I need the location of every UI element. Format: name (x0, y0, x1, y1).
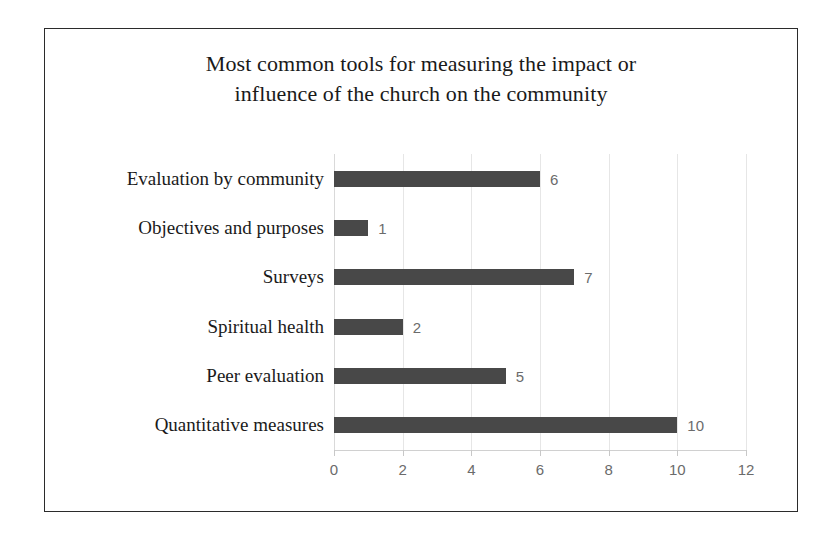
x-tick (403, 450, 404, 456)
bar-value-label: 10 (687, 417, 704, 434)
category-axis: Evaluation by communityObjectives and pu… (45, 154, 334, 450)
bar-value-label: 5 (516, 367, 524, 384)
bar-row: 7 (334, 253, 746, 302)
category-label: Surveys (45, 253, 334, 302)
category-label: Spiritual health (45, 302, 334, 351)
x-tick-label: 0 (330, 461, 338, 478)
bar-value-label: 2 (413, 318, 421, 335)
x-tick (677, 450, 678, 456)
bar[interactable] (334, 171, 540, 187)
chart-title: Most common tools for measuring the impa… (45, 49, 797, 109)
x-tick (540, 450, 541, 456)
chart-frame: Most common tools for measuring the impa… (44, 28, 798, 512)
gridline-12 (746, 154, 747, 450)
bar-value-label: 6 (550, 170, 558, 187)
x-tick (609, 450, 610, 456)
x-tick-label: 12 (738, 461, 755, 478)
bar-value-label: 7 (584, 269, 592, 286)
chart-title-line-2: influence of the church on the community (45, 79, 797, 109)
category-label: Evaluation by community (45, 154, 334, 203)
x-tick (334, 450, 335, 456)
x-tick-label: 6 (536, 461, 544, 478)
bar-row: 1 (334, 203, 746, 252)
x-tick-label: 4 (467, 461, 475, 478)
category-label: Objectives and purposes (45, 203, 334, 252)
x-tick (746, 450, 747, 456)
bar[interactable] (334, 220, 368, 236)
bar[interactable] (334, 269, 574, 285)
bar-value-label: 1 (378, 219, 386, 236)
bar[interactable] (334, 319, 403, 335)
plot-area: 6172510 (334, 154, 746, 450)
bar-row: 6 (334, 154, 746, 203)
bar[interactable] (334, 368, 506, 384)
x-tick-label: 10 (669, 461, 686, 478)
bar[interactable] (334, 417, 677, 433)
bar-row: 5 (334, 351, 746, 400)
x-tick-label: 2 (398, 461, 406, 478)
x-tick (471, 450, 472, 456)
bar-row: 2 (334, 302, 746, 351)
category-label: Quantitative measures (45, 401, 334, 450)
x-tick-label: 8 (604, 461, 612, 478)
category-label: Peer evaluation (45, 351, 334, 400)
bar-row: 10 (334, 401, 746, 450)
chart-title-line-1: Most common tools for measuring the impa… (45, 49, 797, 79)
